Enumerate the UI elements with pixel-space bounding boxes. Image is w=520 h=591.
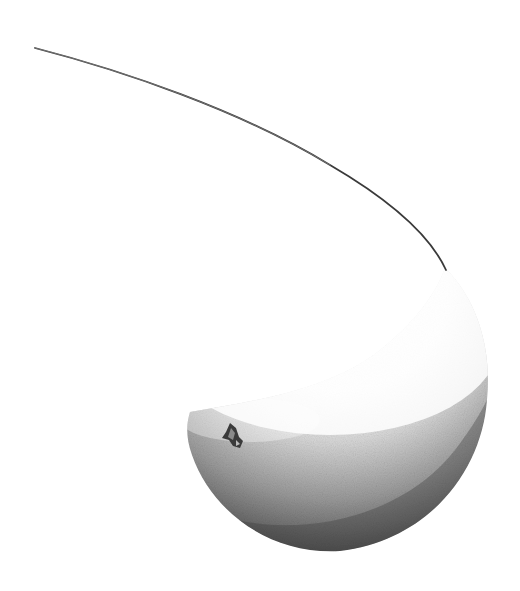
stem: [35, 48, 446, 270]
illustration: [0, 0, 520, 591]
fruit-body: [160, 245, 500, 551]
fruit-illustration: [0, 0, 520, 591]
